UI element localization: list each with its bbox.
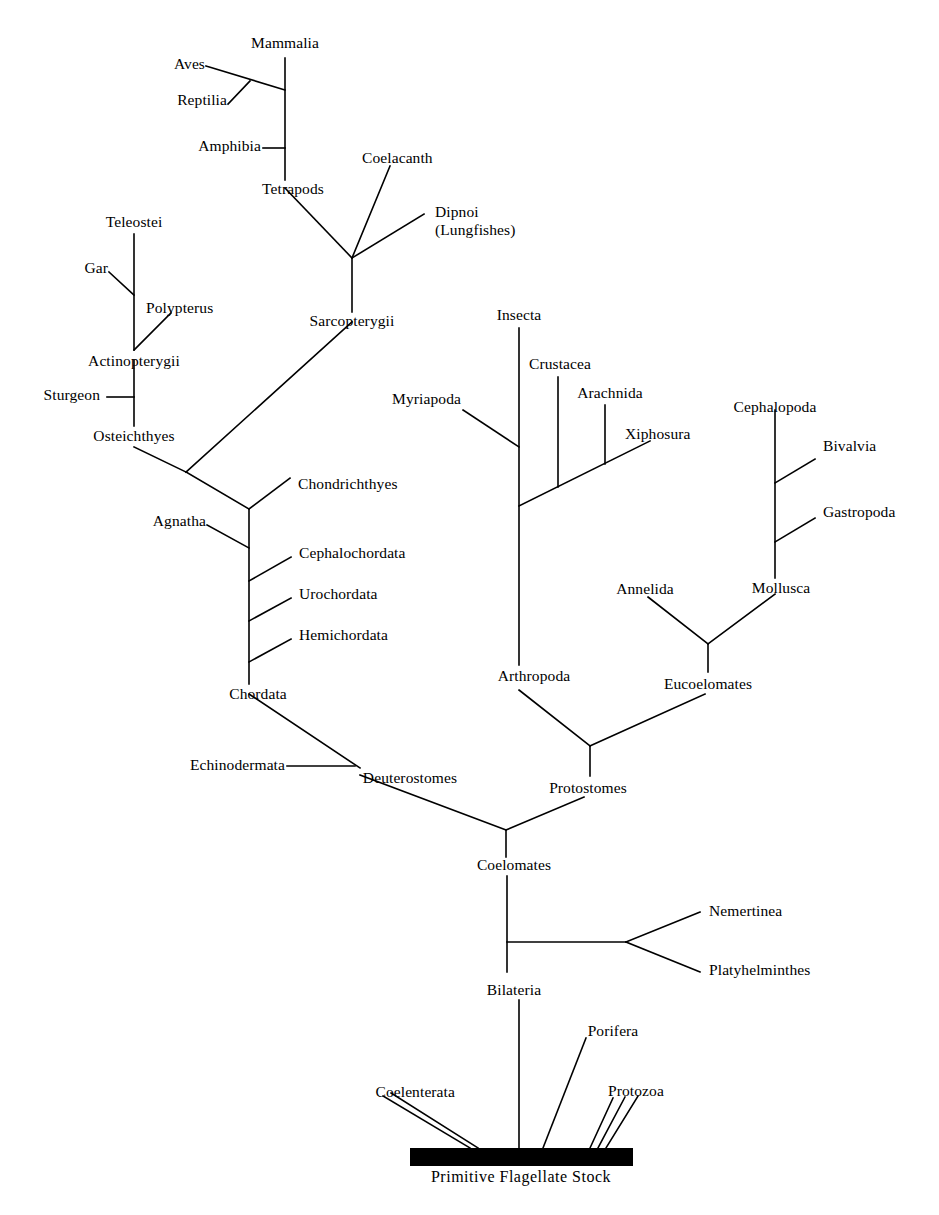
primitive-flagellate-stock-bar [410,1148,633,1166]
label-tetrapods: Tetrapods [262,180,324,197]
branch-gar [109,272,134,295]
branch-cephalochordata [249,557,291,581]
label-nemertinea: Nemertinea [709,902,782,919]
label-hemichordata: Hemichordata [299,626,388,643]
branch-chondrichthyes [249,478,290,509]
branch-mollusca-eucoelomates [708,594,775,644]
branch-porifera [543,1038,586,1148]
label-arachnida: Arachnida [577,384,642,401]
label-teleostei: Teleostei [106,213,163,230]
branch-eucoelomates-protostomes [590,694,705,746]
label-sarcopterygii: Sarcopterygii [310,312,395,329]
branch-sarcopterygii-down [186,322,352,472]
label-porifera: Porifera [588,1022,639,1039]
label-reptilia: Reptilia [177,91,227,108]
branch-gastropoda [775,518,815,542]
branch-annelida [648,597,708,644]
label-coelenterata: Coelenterata [375,1083,455,1100]
branch-bivalvia [775,459,815,483]
branch-gnathostome-stem [186,472,249,509]
label-dipnoi-line2: (Lungfishes) [435,221,515,239]
label-aves: Aves [174,55,205,72]
label-myriapoda: Myriapoda [392,390,461,407]
label-amphibia: Amphibia [198,137,261,154]
branch-osteichthyes-down [134,447,186,472]
label-bivalvia: Bivalvia [823,437,876,454]
branch-agnatha [207,525,249,548]
label-annelida: Annelida [616,580,674,597]
branch-nemertinea [626,912,700,942]
branch-tetrapods-sarcopterygii [285,188,352,258]
label-echinodermata: Echinodermata [190,756,285,773]
label-dipnoi-line1: Dipnoi [435,203,515,221]
label-urochordata: Urochordata [299,585,378,602]
label-primitive-flagellate-stock: Primitive Flagellate Stock [431,1168,611,1186]
branch-polypterus [134,313,171,350]
phylogenetic-tree-figure: Mammalia Aves Reptilia Amphibia Tetrapod… [0,0,939,1215]
label-coelacanth: Coelacanth [362,149,433,166]
label-protostomes: Protostomes [549,779,627,796]
branch-hemichordata [249,639,291,662]
label-chondrichthyes: Chondrichthyes [298,475,398,492]
branch-dipnoi [352,214,424,258]
branch-coelenterata-b [391,1093,478,1148]
label-bilateria: Bilateria [487,981,541,998]
label-insecta: Insecta [497,306,542,323]
branch-coelacanth [352,166,390,258]
branch-urochordata [249,598,291,621]
label-arthropoda: Arthropoda [498,667,570,684]
branch-platyhelminthes [626,942,700,972]
label-chordata: Chordata [229,685,287,702]
branch-xiphosura [519,441,650,506]
label-mammalia: Mammalia [251,34,319,51]
label-gastropoda: Gastropoda [823,503,895,520]
label-coelomates: Coelomates [477,856,551,873]
label-platyhelminthes: Platyhelminthes [709,961,810,978]
branch-reptilia [228,81,250,104]
label-protozoa: Protozoa [608,1082,664,1099]
label-polypterus: Polypterus [146,299,213,316]
branch-myriapoda [463,410,519,447]
label-deuterostomes: Deuterostomes [363,769,457,786]
tree-lines [0,0,939,1215]
label-mollusca: Mollusca [752,579,811,596]
label-sturgeon: Sturgeon [44,386,101,403]
branch-protostomes-coelomates [506,797,584,830]
label-cephalochordata: Cephalochordata [299,544,406,561]
label-crustacea: Crustacea [529,355,591,372]
label-osteichthyes: Osteichthyes [93,427,174,444]
label-agnatha: Agnatha [153,512,206,529]
label-actinopterygii: Actinopterygii [88,352,180,369]
label-dipnoi: Dipnoi (Lungfishes) [435,203,515,240]
branch-coelenterata-a [383,1096,470,1148]
label-eucoelomates: Eucoelomates [664,675,752,692]
label-gar: Gar [84,259,108,276]
label-xiphosura: Xiphosura [625,425,690,442]
branch-arthropoda-protostomes [519,690,590,746]
label-cephalopoda: Cephalopoda [734,398,817,415]
